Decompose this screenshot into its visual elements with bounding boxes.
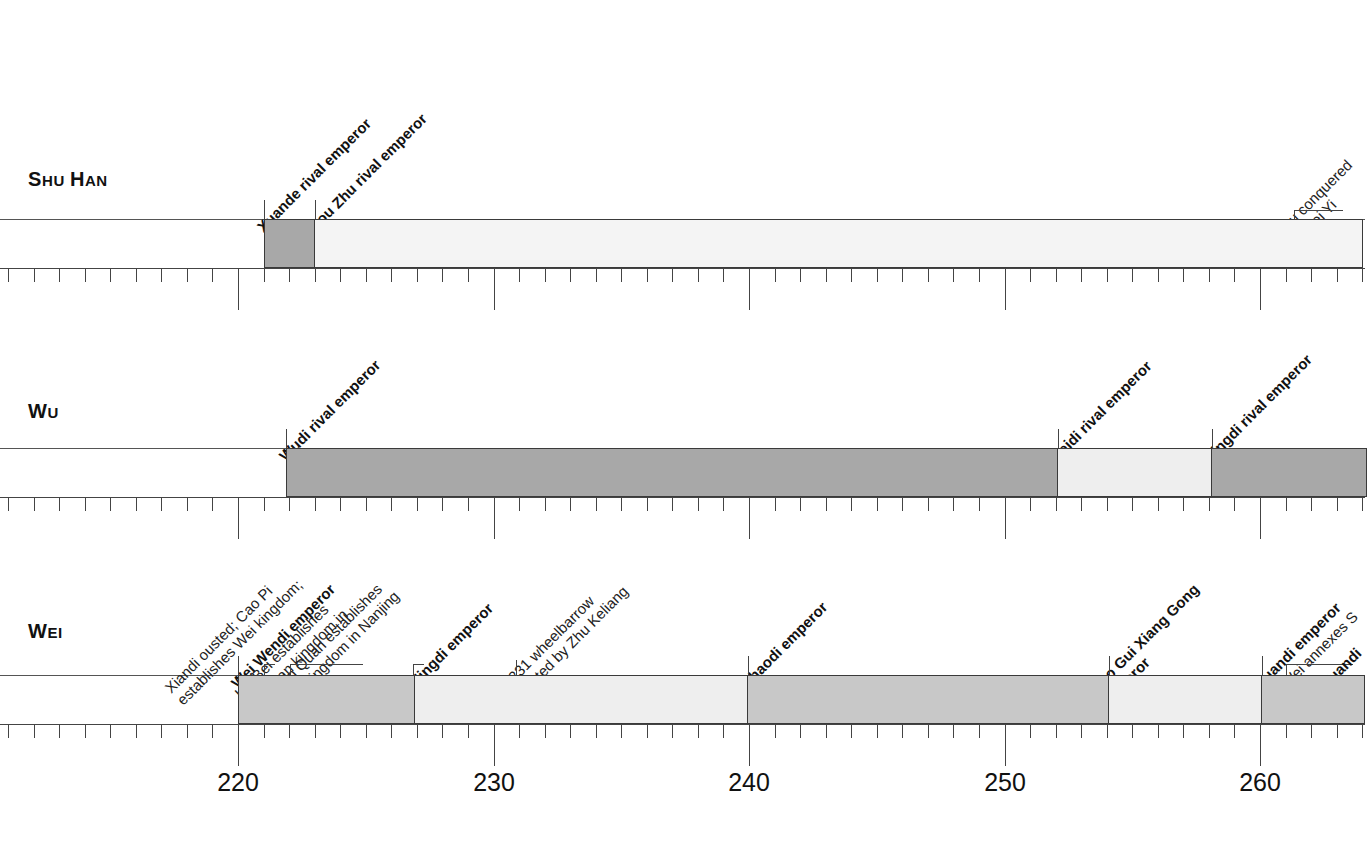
leader-feidi xyxy=(1058,429,1059,449)
axis-tick-minor xyxy=(953,724,954,738)
axis-line xyxy=(0,497,1365,498)
axis-tick-minor xyxy=(1209,268,1210,282)
axis-tick-minor xyxy=(187,497,188,511)
axis-tick-minor xyxy=(723,497,724,511)
axis-tick-minor xyxy=(851,268,852,282)
axis-tick-minor xyxy=(519,724,520,738)
axis-tick-minor xyxy=(34,724,35,738)
axis-tick-minor xyxy=(1107,497,1108,511)
axis-tick-minor xyxy=(953,268,954,282)
axis-tick-minor xyxy=(417,268,418,282)
leader-xuande xyxy=(264,200,265,220)
axis-tick-minor xyxy=(1183,268,1184,282)
axis-tick-minor xyxy=(1132,268,1133,282)
axis-tick-minor xyxy=(1081,497,1082,511)
axis-tick-minor xyxy=(596,724,597,738)
era-bar-wei xyxy=(238,675,1365,724)
axis-tick-minor xyxy=(545,268,546,282)
axis-tick-minor xyxy=(468,497,469,511)
axis-tick-minor xyxy=(59,724,60,738)
leader-wheelbarrow xyxy=(516,660,517,676)
axis-tick-minor xyxy=(545,724,546,738)
row-label-wei: WEI xyxy=(28,620,63,643)
axis-tick-major xyxy=(494,268,495,310)
axis-tick-major xyxy=(494,724,495,766)
axis-tick-minor xyxy=(59,497,60,511)
axis-tick-minor xyxy=(366,268,367,282)
axis-tick-minor xyxy=(519,268,520,282)
axis-tick-minor xyxy=(289,497,290,511)
axis-tick-major xyxy=(238,724,239,766)
axis-tick-major xyxy=(1260,268,1261,310)
axis-tick-minor xyxy=(928,268,929,282)
leader-wudi xyxy=(286,429,287,449)
axis-tick-minor xyxy=(698,268,699,282)
axis-tick-minor xyxy=(264,497,265,511)
axis-tick-minor xyxy=(1337,497,1338,511)
axis-tick-minor xyxy=(519,497,520,511)
axis-shu-han xyxy=(0,268,1365,314)
axis-tick-minor xyxy=(442,268,443,282)
axis-tick-minor xyxy=(1183,724,1184,738)
axis-tick-minor xyxy=(621,268,622,282)
axis-tick-minor xyxy=(1056,497,1057,511)
axis-tick-minor xyxy=(340,724,341,738)
axis-line xyxy=(0,268,1365,269)
axis-tick-minor xyxy=(775,724,776,738)
axis-tick-minor xyxy=(1183,497,1184,511)
axis-tick-minor xyxy=(672,268,673,282)
axis-tick-minor xyxy=(417,724,418,738)
axis-tick-minor xyxy=(340,268,341,282)
axis-tick-minor xyxy=(851,724,852,738)
segment-yuandi-reign xyxy=(1262,675,1365,724)
axis-tick-minor xyxy=(570,724,571,738)
axis-tick-minor xyxy=(979,497,980,511)
axis-tick-minor xyxy=(1234,268,1235,282)
axis-tick-minor xyxy=(1030,724,1031,738)
era-bar-shu-han xyxy=(264,219,1363,268)
axis-tick-minor xyxy=(928,497,929,511)
axis-tick-minor xyxy=(315,497,316,511)
segment-gao-gui-xiang-reign xyxy=(1109,675,1262,724)
axis-tick-minor xyxy=(8,268,9,282)
leader-gao-gui-xiang xyxy=(1109,656,1110,676)
axis-tick-minor xyxy=(1132,724,1133,738)
axis-tick-minor xyxy=(136,497,137,511)
axis-tick-minor xyxy=(136,268,137,282)
axis-tick-minor xyxy=(8,724,9,738)
axis-tick-minor xyxy=(110,268,111,282)
axis-tick-minor xyxy=(1107,724,1108,738)
axis-tick-minor xyxy=(647,497,648,511)
axis-tick-minor xyxy=(315,724,316,738)
axis-tick-minor xyxy=(902,268,903,282)
axis-line xyxy=(0,724,1365,725)
axis-tick-minor xyxy=(1362,724,1363,738)
axis-tick-minor xyxy=(136,724,137,738)
axis-tick-minor xyxy=(264,724,265,738)
axis-wei: 220230240250260 xyxy=(0,724,1365,770)
axis-tick-minor xyxy=(468,724,469,738)
axis-tick-minor xyxy=(672,724,673,738)
axis-tick-minor xyxy=(826,497,827,511)
axis-tick-minor xyxy=(468,268,469,282)
axis-tick-minor xyxy=(442,497,443,511)
axis-tick-minor xyxy=(698,724,699,738)
axis-tick-minor xyxy=(1056,724,1057,738)
axis-tick-minor xyxy=(1362,497,1363,511)
axis-tick-minor xyxy=(826,268,827,282)
axis-tick-minor xyxy=(800,268,801,282)
axis-tick-minor xyxy=(1337,268,1338,282)
axis-tick-minor xyxy=(596,268,597,282)
axis-tick-minor xyxy=(800,724,801,738)
segment-hou-zhu-reign xyxy=(315,219,1363,268)
axis-tick-minor xyxy=(723,724,724,738)
axis-tick-minor xyxy=(1158,497,1159,511)
axis-tick-major xyxy=(1005,268,1006,310)
axis-tick-minor xyxy=(545,497,546,511)
axis-tick-minor xyxy=(570,268,571,282)
axis-tick-minor xyxy=(1158,724,1159,738)
axis-tick-minor xyxy=(161,268,162,282)
axis-tick-minor xyxy=(1362,268,1363,282)
axis-tick-minor xyxy=(1337,724,1338,738)
